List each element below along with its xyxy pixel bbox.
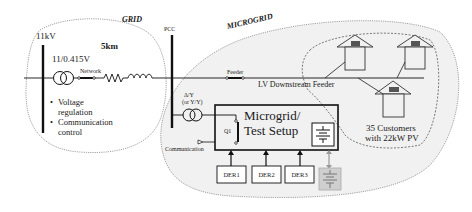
mg-transformer-label-line2: (or Y/Y): [182, 99, 203, 105]
communication-label: Communication: [165, 146, 204, 152]
feeder-label: Feeder: [227, 69, 243, 75]
setup-title-line1: Microgrid/: [244, 109, 300, 122]
grid-transformer-label: 11/0.415V: [52, 55, 90, 64]
resistor-icon: [104, 74, 123, 82]
bullet-voltage-regulation: Voltage regulation: [50, 97, 108, 117]
pv-panel-icon: [411, 41, 420, 46]
der1-label: DER1: [217, 171, 246, 178]
mg-transformer-label-line1: Δ/Y: [184, 92, 194, 98]
lv-downstream-feeder-label: LV Downstream Feeder: [258, 81, 334, 89]
grid-region-label: GRID: [122, 16, 142, 24]
voltage-11kv-label: 11kV: [36, 32, 56, 41]
setup-title-line2: Test Setup: [244, 124, 298, 137]
customers-label-line1: 35 Customers: [366, 124, 416, 133]
inductor-icon: [128, 74, 152, 78]
der2-label: DER2: [252, 171, 281, 178]
pcc-label: PCC: [164, 26, 175, 32]
distance-label: 5km: [101, 42, 118, 51]
network-label: Network: [80, 68, 101, 74]
pv-panel-icon: [351, 41, 360, 46]
bullet-communication-control: Communication control: [50, 117, 118, 137]
der3-label: DER3: [285, 171, 314, 178]
grid-functions-list: Voltage regulation Communication control: [50, 97, 118, 137]
q1-label: Q1: [224, 128, 231, 134]
customers-label-line2: with 22kW PV: [365, 134, 419, 143]
pv-panel-icon: [389, 87, 399, 92]
